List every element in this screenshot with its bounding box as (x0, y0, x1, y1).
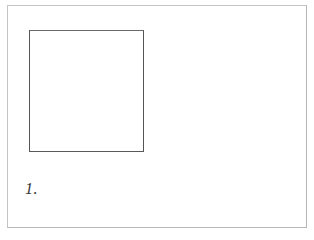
square-shape (29, 30, 144, 152)
figure-label: 1. (25, 180, 38, 198)
